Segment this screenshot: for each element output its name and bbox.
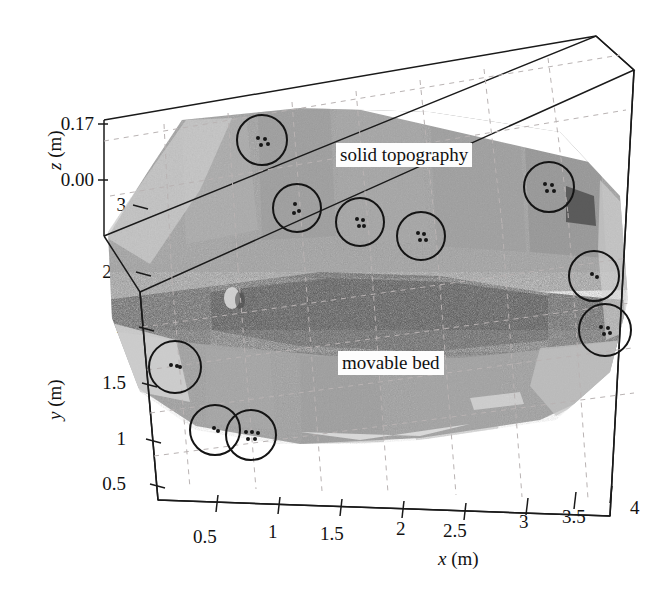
marker-circle [273,184,321,232]
control-point-markers [0,0,665,602]
figure-canvas: solid topography movable bed 0.17 0.00 3… [0,0,665,602]
marker-circle [226,410,276,460]
marker-circle [336,198,384,246]
marker-circle [397,212,445,260]
annotation-solid-topography: solid topography [336,143,472,167]
marker-circle [579,304,631,356]
marker-circle [237,115,287,165]
marker-circle [190,405,240,455]
marker-circle [524,162,574,212]
marker-circle [149,341,201,393]
annotation-movable-bed: movable bed [338,351,444,375]
marker-circle [569,251,619,301]
